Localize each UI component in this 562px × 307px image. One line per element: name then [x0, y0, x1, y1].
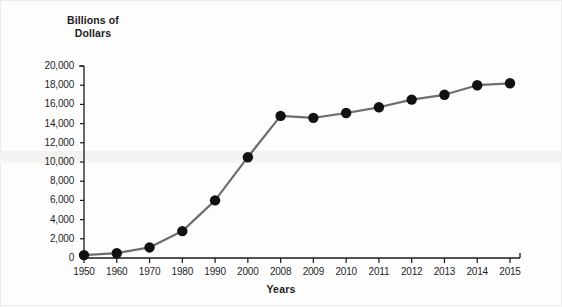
data-line — [84, 83, 510, 255]
data-point — [112, 248, 122, 258]
data-point — [177, 226, 187, 236]
data-point — [505, 78, 515, 88]
axis-lines — [79, 66, 520, 258]
data-point — [472, 80, 482, 90]
data-point — [243, 152, 253, 162]
data-point — [341, 108, 351, 118]
data-point — [210, 195, 220, 205]
data-point — [275, 111, 285, 121]
chart-figure: Billions of Dollars Years 20,00018,00016… — [0, 0, 562, 307]
data-point — [144, 242, 154, 252]
x-axis-tick-marks — [84, 258, 510, 263]
data-point — [439, 90, 449, 100]
data-point — [79, 250, 89, 260]
data-point — [406, 94, 416, 104]
data-point — [374, 102, 384, 112]
data-point-markers — [79, 78, 515, 260]
plot-area — [0, 0, 562, 307]
data-point — [308, 113, 318, 123]
